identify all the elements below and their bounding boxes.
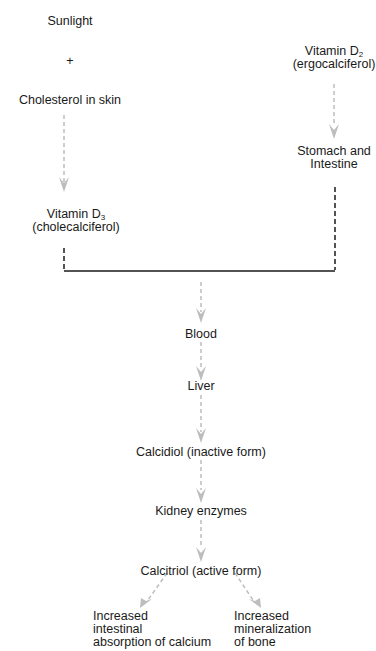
arrow-calcitriol-to-intestinal — [140, 573, 167, 608]
node-plus: + — [66, 55, 73, 68]
node-vitamin-d2: Vitamin D2 (ergocalciferol) — [293, 45, 376, 71]
node-liver: Liver — [187, 380, 214, 393]
node-vitamin-d3: Vitamin D3 (cholecalciferol) — [32, 208, 120, 234]
node-bone-mineralization: Increased mineralization of bone — [234, 610, 311, 649]
node-intestinal-absorption: Increased intestinal absorption of calci… — [93, 610, 211, 649]
vitd3-alt-name: (cholecalciferol) — [32, 220, 120, 234]
arrow-cholesterol-to-vitd3 — [59, 115, 69, 192]
node-calcitriol: Calcitriol (active form) — [141, 565, 262, 578]
vitd2-alt-name: (ergocalciferol) — [293, 57, 376, 71]
stomach-line-1: Stomach and — [297, 144, 371, 158]
out2-line-2: mineralization — [234, 622, 311, 636]
node-blood: Blood — [185, 328, 217, 341]
arrow-vitd2-to-stomach — [329, 84, 339, 139]
vitd2-label: Vitamin D — [305, 44, 359, 58]
out2-line-3: of bone — [234, 635, 276, 649]
node-sunlight: Sunlight — [47, 15, 92, 28]
out1-line-1: Increased — [93, 609, 148, 623]
stomach-line-2: Intestine — [310, 157, 357, 171]
out2-line-1: Increased — [234, 609, 289, 623]
node-calcidiol: Calcidiol (inactive form) — [136, 446, 266, 459]
out1-line-2: intestinal — [93, 622, 142, 636]
node-stomach-intestine: Stomach and Intestine — [297, 145, 371, 171]
node-cholesterol: Cholesterol in skin — [19, 94, 121, 107]
arrow-calcitriol-to-bone — [235, 573, 261, 608]
vitd3-label: Vitamin D — [47, 207, 101, 221]
out1-line-3: absorption of calcium — [93, 635, 211, 649]
node-kidney-enzymes: Kidney enzymes — [155, 505, 247, 518]
